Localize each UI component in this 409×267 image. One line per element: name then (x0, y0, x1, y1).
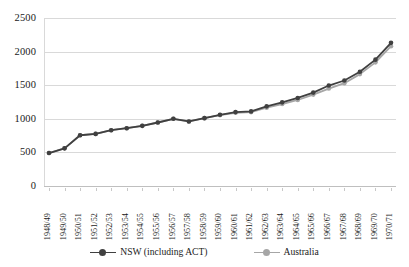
x-tick (329, 188, 330, 191)
data-point (140, 124, 145, 129)
legend-label-nsw: NSW (including ACT) (120, 247, 207, 257)
y-axis-labels: 05001000150020002500 (0, 18, 40, 186)
data-point (342, 78, 347, 83)
x-tick (173, 188, 174, 191)
x-tick-label: 1970/71 (386, 213, 394, 240)
x-tick (111, 188, 112, 191)
data-point (373, 57, 378, 62)
x-tick-label: 1958/59 (199, 213, 207, 240)
x-tick-label: 1962/63 (262, 213, 270, 240)
data-point (47, 151, 52, 156)
data-point (389, 41, 394, 46)
data-point (109, 128, 114, 133)
data-point (264, 104, 269, 109)
x-tick (251, 188, 252, 191)
legend-marker-nsw (90, 248, 116, 257)
data-point (280, 100, 285, 105)
x-tick (96, 188, 97, 191)
x-tick (313, 188, 314, 191)
x-tick-label: 1949/50 (60, 213, 68, 240)
data-point (187, 119, 192, 124)
x-tick-label: 1953/54 (122, 213, 130, 240)
x-tick-label: 1956/57 (168, 213, 176, 240)
x-tick-label: 1961/62 (246, 213, 254, 240)
data-point (311, 90, 316, 95)
series-line-australia (49, 46, 391, 153)
x-tick (344, 188, 345, 191)
data-point (249, 109, 254, 114)
data-point (78, 133, 83, 138)
y-tick-label: 2500 (15, 13, 36, 24)
axis-baseline (44, 186, 396, 187)
legend-item-nsw[interactable]: NSW (including ACT) (90, 247, 207, 257)
x-tick (127, 188, 128, 191)
x-tick (282, 188, 283, 191)
x-tick (80, 188, 81, 191)
y-tick-label: 500 (20, 147, 36, 158)
y-tick-label: 1500 (15, 80, 36, 91)
legend-marker-australia (254, 248, 280, 257)
data-point (233, 110, 238, 115)
x-tick-label: 1969/70 (370, 213, 378, 240)
data-point (124, 126, 129, 131)
legend-item-australia[interactable]: Australia (254, 247, 319, 257)
x-tick (189, 188, 190, 191)
x-tick (204, 188, 205, 191)
data-point (295, 96, 300, 101)
x-tick-label: 1952/53 (106, 213, 114, 240)
x-tick (267, 188, 268, 191)
series-line-nsw (49, 43, 391, 153)
data-series-layer (44, 18, 396, 186)
x-tick-label: 1967/68 (339, 213, 347, 240)
x-tick-label: 1960/61 (231, 213, 239, 240)
x-axis-labels: 1948/491949/501950/511951/521952/531953/… (44, 188, 396, 240)
x-tick (49, 188, 50, 191)
x-tick-label: 1963/64 (277, 213, 285, 240)
y-tick-label: 0 (31, 181, 36, 192)
x-tick-label: 1950/51 (75, 213, 83, 240)
x-tick-label: 1957/58 (184, 213, 192, 240)
data-point (156, 120, 161, 125)
y-tick-label: 1000 (15, 114, 36, 125)
data-point (358, 69, 363, 74)
data-point (327, 83, 332, 88)
x-tick-label: 1959/60 (215, 213, 223, 240)
x-tick (142, 188, 143, 191)
line-chart: 05001000150020002500 1948/491949/501950/… (0, 0, 409, 267)
x-tick-label: 1966/67 (324, 213, 332, 240)
x-tick (158, 188, 159, 191)
x-tick-label: 1954/55 (137, 213, 145, 240)
chart-legend: NSW (including ACT) Australia (0, 244, 409, 260)
x-tick (298, 188, 299, 191)
x-tick-label: 1965/66 (308, 213, 316, 240)
data-point (62, 146, 67, 151)
x-tick (65, 188, 66, 191)
y-tick-label: 2000 (15, 46, 36, 57)
data-point (202, 116, 207, 121)
x-tick (375, 188, 376, 191)
x-tick-label: 1968/69 (355, 213, 363, 240)
x-tick (236, 188, 237, 191)
data-point (93, 132, 98, 137)
data-point (218, 112, 223, 117)
x-tick-label: 1955/56 (153, 213, 161, 240)
x-tick (391, 188, 392, 191)
x-tick (220, 188, 221, 191)
data-point (171, 117, 176, 122)
x-tick-label: 1964/65 (293, 213, 301, 240)
x-tick (360, 188, 361, 191)
x-tick-label: 1948/49 (44, 213, 52, 240)
legend-label-australia: Australia (284, 247, 319, 257)
x-tick-label: 1951/52 (91, 213, 99, 240)
